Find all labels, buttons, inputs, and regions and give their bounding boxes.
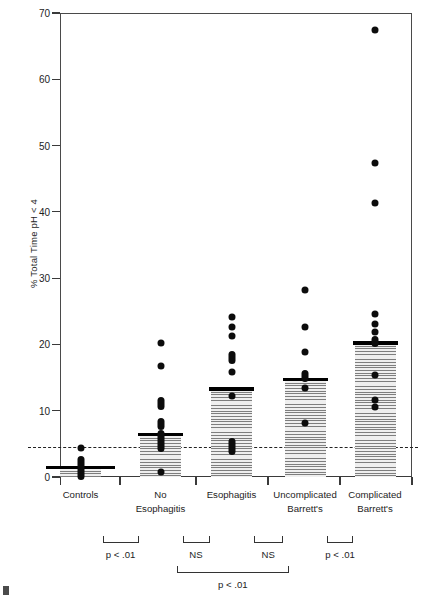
x-axis-category-label: NoEsophagitis [136, 488, 186, 515]
y-axis-tick [52, 211, 60, 212]
data-point [372, 336, 379, 347]
data-point [302, 370, 309, 382]
data-point [372, 26, 379, 33]
x-axis-label-line: Complicated [348, 488, 401, 502]
data-point [228, 438, 235, 454]
bar [285, 380, 326, 477]
x-axis-label-line: Barrett's [348, 502, 401, 516]
significance-label: p < .01 [106, 549, 136, 560]
data-point [372, 199, 379, 206]
y-axis-tick [52, 145, 60, 146]
figure-canvas: % Total Time pH < 4 010203040506070 Cont… [0, 0, 426, 603]
bar [211, 389, 252, 477]
data-point [372, 404, 379, 411]
data-point [372, 310, 379, 317]
data-point [157, 418, 164, 430]
data-point [302, 419, 309, 426]
y-axis-tick-label: 50 [0, 140, 50, 151]
data-point [228, 332, 235, 339]
y-axis-tick-label: 30 [0, 273, 50, 284]
x-axis-label-line: Esophagitis [207, 488, 257, 502]
y-axis-tick-label: 40 [0, 206, 50, 217]
x-axis-label-line: Barrett's [273, 502, 336, 516]
x-axis-tick [119, 477, 120, 485]
y-axis-tick [52, 344, 60, 345]
data-point [228, 351, 235, 364]
data-point [372, 320, 379, 327]
data-point [302, 385, 309, 392]
data-point [228, 369, 235, 376]
x-axis-tick [411, 477, 412, 485]
x-axis-label-line: No [136, 488, 186, 502]
x-axis-tick [60, 477, 61, 485]
y-axis-tick-label: 10 [0, 405, 50, 416]
y-axis-tick [52, 12, 60, 13]
significance-bracket [103, 536, 139, 543]
data-point [372, 371, 379, 378]
x-axis-tick [195, 477, 196, 485]
y-axis-tick [52, 278, 60, 279]
y-axis-tick-label: 20 [0, 339, 50, 350]
data-point [157, 430, 164, 452]
data-point [228, 393, 235, 400]
x-axis-category-label: Esophagitis [207, 488, 257, 502]
data-point [372, 397, 379, 404]
significance-bracket [254, 536, 284, 543]
x-axis-tick [267, 477, 268, 485]
significance-bracket [327, 536, 353, 543]
y-axis-tick [52, 410, 60, 411]
significance-label: p < .01 [325, 549, 355, 560]
x-axis-category-label: Controls [63, 488, 99, 502]
data-point [228, 324, 235, 331]
x-axis-label-line: Esophagitis [136, 502, 186, 516]
data-point [77, 444, 84, 451]
significance-label: p < .01 [218, 579, 248, 590]
y-axis-tick [52, 79, 60, 80]
y-axis-tick-label: 60 [0, 74, 50, 85]
y-axis-label: % Total Time pH < 4 [28, 164, 39, 324]
data-point [157, 340, 164, 347]
bar-median-cap [209, 387, 254, 390]
significance-label: NS [262, 549, 275, 560]
significance-bracket [183, 536, 210, 543]
data-point [228, 313, 235, 320]
scan-artifact [3, 586, 9, 595]
data-point [157, 397, 164, 410]
x-axis-category-label: ComplicatedBarrett's [348, 488, 401, 515]
data-point [157, 363, 164, 370]
x-axis-label-line: Controls [63, 488, 99, 502]
data-point [302, 287, 309, 294]
x-axis-category-label: UncomplicatedBarrett's [273, 488, 336, 515]
y-axis-tick-label: 70 [0, 8, 50, 19]
x-axis-tick [339, 477, 340, 485]
significance-label: NS [189, 549, 202, 560]
data-point [372, 159, 379, 166]
significance-bracket [177, 566, 290, 573]
y-axis-tick [52, 476, 60, 477]
data-point [372, 328, 379, 335]
data-point [302, 348, 309, 355]
x-axis-label-line: Uncomplicated [273, 488, 336, 502]
data-point [302, 324, 309, 331]
y-axis-tick-label: 0 [0, 472, 50, 483]
data-point [77, 456, 84, 480]
data-point [157, 469, 164, 476]
